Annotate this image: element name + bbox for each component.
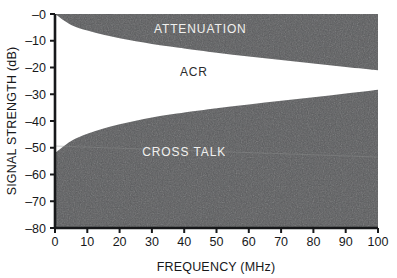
x-tick-label: 30 <box>145 235 159 249</box>
y-tick-label: –60 <box>25 168 46 182</box>
plot-area <box>55 14 378 228</box>
y-axis-title: SIGNAL STRENGTH (dB) <box>5 47 19 196</box>
x-tick-label: 10 <box>80 235 94 249</box>
x-tick-label: 100 <box>368 235 389 249</box>
y-tick-label: –70 <box>25 195 46 209</box>
y-tick-label: –50 <box>25 141 46 155</box>
x-tick-label: 0 <box>52 235 59 249</box>
x-tick-label: 90 <box>339 235 353 249</box>
x-tick-label: 70 <box>274 235 288 249</box>
x-tick-label: 60 <box>242 235 256 249</box>
x-tick-label: 20 <box>113 235 127 249</box>
y-tick-label: –20 <box>25 61 46 75</box>
y-tick-label: –80 <box>25 222 46 236</box>
y-axis-ticks: –0–10–20–30–40–50–60–70–80 <box>25 8 55 236</box>
chart-canvas: ATTENUATION ACR CROSS TALK –0–10–20–30–4… <box>0 0 397 278</box>
x-tick-label: 40 <box>177 235 191 249</box>
x-tick-label: 50 <box>210 235 224 249</box>
x-axis-title: FREQUENCY (MHz) <box>157 260 276 274</box>
y-tick-label: –0 <box>32 8 46 22</box>
y-tick-label: –10 <box>25 34 46 48</box>
y-tick-label: –30 <box>25 88 46 102</box>
signal-strength-chart-figure: ATTENUATION ACR CROSS TALK –0–10–20–30–4… <box>0 0 397 278</box>
region-label-acr: ACR <box>180 65 208 79</box>
region-label-attenuation: ATTENUATION <box>154 22 247 36</box>
region-label-cross-talk: CROSS TALK <box>142 145 226 159</box>
y-tick-label: –40 <box>25 115 46 129</box>
x-tick-label: 80 <box>306 235 320 249</box>
